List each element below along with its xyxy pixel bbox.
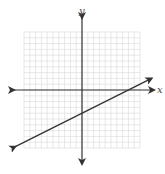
y-axis-label: y (78, 5, 85, 16)
x-axis-label: x (157, 84, 163, 95)
coordinate-plane: x y (0, 0, 165, 174)
